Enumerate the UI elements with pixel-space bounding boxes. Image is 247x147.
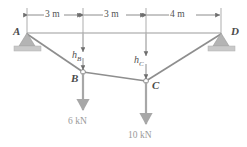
support-triangle-D — [213, 33, 229, 46]
dimension-label-span1: 3 m — [44, 10, 61, 20]
cable-members — [27, 34, 221, 81]
figure-canvas: 3 m 3 m 4 m A D B C hB hC 6 kN 10 kN — [0, 0, 247, 147]
node-label-C: C — [152, 80, 159, 91]
sag-label-hB-sub: B — [77, 55, 81, 63]
sag-label-hC: hC — [134, 55, 144, 68]
support-base-A — [14, 46, 41, 51]
support-label-A: A — [13, 26, 20, 37]
support-label-D: D — [231, 26, 239, 37]
load-label-6kN: 6 kN — [68, 117, 87, 127]
support-triangle-A — [19, 33, 35, 46]
dimension-label-span2: 3 m — [103, 10, 120, 20]
dimension-label-span3: 4 m — [169, 10, 186, 20]
node-label-B: B — [71, 73, 78, 84]
sag-label-hB: hB — [72, 50, 81, 63]
load-arrow-group — [83, 73, 146, 124]
support-base-D — [208, 46, 235, 51]
member-BC — [83, 72, 146, 81]
member-CD — [146, 34, 221, 81]
load-label-10kN: 10 kN — [128, 131, 152, 141]
structural-diagram-svg — [0, 0, 247, 147]
sag-label-hC-sub: C — [139, 60, 144, 68]
